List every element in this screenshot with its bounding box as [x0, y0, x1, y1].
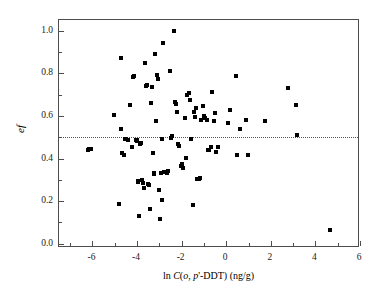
data-point	[187, 91, 191, 95]
data-point	[168, 69, 172, 73]
x-tick-minor	[338, 243, 339, 246]
data-point	[244, 118, 248, 122]
x-tick-minor	[70, 243, 71, 246]
data-point	[214, 150, 218, 154]
data-point	[137, 214, 141, 218]
data-point	[151, 151, 155, 155]
data-point	[170, 134, 174, 138]
data-point	[210, 90, 214, 94]
data-point	[161, 41, 165, 45]
y-tick-label: 0.2	[28, 195, 53, 205]
data-point	[89, 147, 93, 151]
data-point	[119, 127, 123, 131]
data-point	[207, 148, 211, 152]
data-point	[209, 145, 213, 149]
data-point	[194, 106, 198, 110]
data-point	[328, 228, 332, 232]
data-point	[188, 98, 192, 102]
y-tick-major	[59, 73, 64, 74]
data-point	[147, 183, 151, 187]
data-point	[286, 86, 290, 90]
x-tick-minor	[159, 243, 160, 246]
data-point	[238, 127, 242, 131]
data-point	[181, 166, 185, 170]
data-point	[160, 137, 164, 141]
data-point	[193, 115, 197, 119]
data-point	[142, 186, 146, 190]
x-tick-minor	[115, 243, 116, 246]
x-tick-label: -6	[87, 252, 95, 262]
data-point	[119, 56, 123, 60]
x-axis-label: ln C(o, p'-DDT) (ng/g)	[58, 270, 359, 281]
data-point	[213, 111, 217, 115]
data-point	[126, 138, 130, 142]
reference-line-racemic	[59, 137, 358, 138]
y-tick-major	[59, 244, 64, 245]
data-point	[153, 52, 157, 56]
x-tick-minor	[293, 243, 294, 246]
x-tick-label: 4	[312, 252, 317, 262]
y-tick-label: 1.0	[28, 25, 53, 35]
scatter-plot-figure: ln C(o, p'-DDT) (ng/g) ef -6-4-202460.00…	[0, 0, 375, 296]
x-tick-minor	[249, 243, 250, 246]
x-tick-major	[182, 241, 183, 246]
data-point	[141, 181, 145, 185]
y-tick-major	[59, 201, 64, 202]
x-tick-major	[315, 241, 316, 246]
y-axis-label: ef	[14, 125, 26, 133]
x-tick-label: -2	[177, 252, 185, 262]
x-tick-major	[92, 241, 93, 246]
data-point	[143, 61, 147, 65]
data-point	[132, 74, 136, 78]
data-point	[295, 133, 299, 137]
data-point	[150, 85, 154, 89]
data-point	[139, 141, 143, 145]
data-point	[183, 116, 187, 120]
y-tick-minor	[59, 52, 62, 53]
x-tick-major	[271, 241, 272, 246]
data-point	[201, 104, 205, 108]
data-point	[145, 83, 149, 87]
plot-area	[58, 19, 359, 247]
data-point	[294, 103, 298, 107]
y-tick-minor	[59, 180, 62, 181]
x-tick-label: 6	[357, 252, 362, 262]
x-tick-minor	[204, 243, 205, 246]
data-point	[175, 110, 179, 114]
data-point	[149, 101, 153, 105]
y-tick-minor	[59, 95, 62, 96]
data-point	[177, 144, 181, 148]
x-tick-major	[360, 241, 361, 246]
y-tick-major	[59, 31, 64, 32]
y-tick-minor	[59, 137, 62, 138]
data-point	[152, 172, 156, 176]
data-point	[205, 118, 209, 122]
x-tick-label: 0	[223, 252, 228, 262]
x-tick-label: 2	[267, 252, 272, 262]
data-point	[235, 153, 239, 157]
x-tick-label: -4	[132, 252, 140, 262]
data-point	[189, 137, 193, 141]
data-point	[212, 119, 216, 123]
data-point	[130, 145, 134, 149]
y-tick-label: 0.4	[28, 153, 53, 163]
data-point	[157, 188, 161, 192]
y-tick-label: 0.0	[28, 238, 53, 248]
data-point	[172, 29, 176, 33]
data-point	[122, 153, 126, 157]
data-point	[174, 102, 178, 106]
data-point	[216, 145, 220, 149]
y-tick-major	[59, 159, 64, 160]
data-point	[117, 202, 121, 206]
data-point	[160, 198, 164, 202]
data-point	[112, 113, 116, 117]
y-tick-label: 0.6	[28, 110, 53, 120]
data-point	[191, 203, 195, 207]
data-point	[184, 156, 188, 160]
data-point	[246, 153, 250, 157]
data-point	[148, 207, 152, 211]
data-point	[226, 121, 230, 125]
data-point	[128, 103, 132, 107]
x-tick-major	[137, 241, 138, 246]
data-point	[158, 217, 162, 221]
